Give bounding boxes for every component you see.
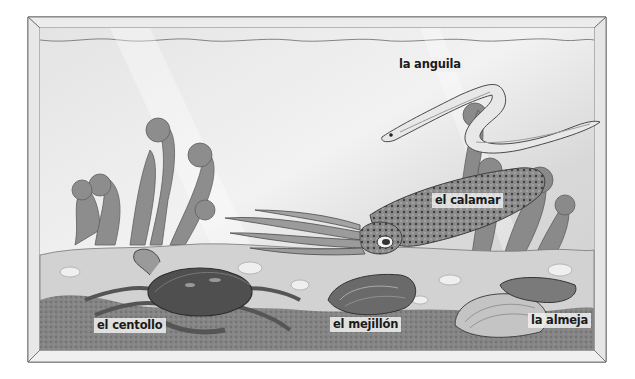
label-mussel: el mejillón (330, 317, 401, 332)
label-clam: la almeja (528, 313, 591, 328)
label-eel: la anguila (396, 57, 464, 72)
label-crab: el centollo (94, 318, 166, 333)
label-squid: el calamar (432, 193, 503, 208)
